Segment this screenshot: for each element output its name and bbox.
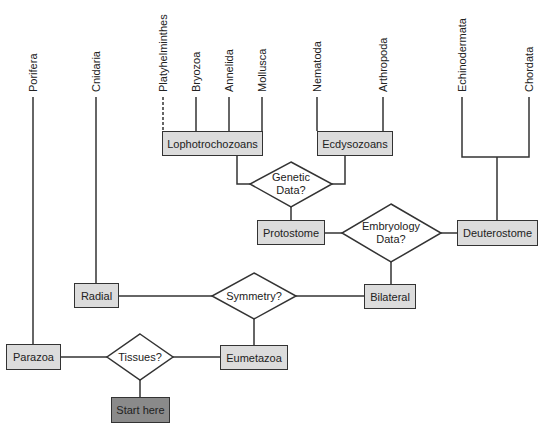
leaf-arthropoda: Arthropoda	[377, 38, 389, 92]
genetic-decision-label: GeneticData?	[262, 170, 320, 198]
symmetry-decision-label: Symmetry?	[218, 289, 290, 303]
leaf-mollusca: Mollusca	[256, 49, 268, 92]
eumetazoa-box: Eumetazoa	[220, 345, 288, 370]
leaf-platyhelminthes: Platyhelminthes	[157, 14, 169, 92]
leaf-bryozoa: Bryozoa	[190, 52, 202, 92]
lophotrochozoans-box: Lophotrochozoans	[162, 131, 263, 156]
leaf-echinodermata: Echinodermata	[456, 18, 468, 92]
ecdysozoans-box: Ecdysozoans	[317, 131, 393, 156]
deuterostome-box: Deuterostome	[457, 220, 538, 246]
embryology-decision-label: EmbryologyData?	[352, 219, 430, 247]
leaf-annelida: Annelida	[223, 49, 235, 92]
start-here-button[interactable]: Start here	[111, 397, 170, 423]
protostome-box: Protostome	[257, 220, 325, 245]
leaf-cnidaria: Cnidaria	[90, 51, 102, 92]
bilateral-box: Bilateral	[364, 284, 416, 309]
leaf-porifera: Porifera	[27, 53, 39, 92]
leaf-chordata: Chordata	[523, 47, 535, 92]
radial-box: Radial	[74, 283, 119, 308]
tissues-decision-label: Tissues?	[112, 350, 168, 364]
parazoa-box: Parazoa	[6, 344, 61, 370]
leaf-nematoda: Nematoda	[311, 41, 323, 92]
